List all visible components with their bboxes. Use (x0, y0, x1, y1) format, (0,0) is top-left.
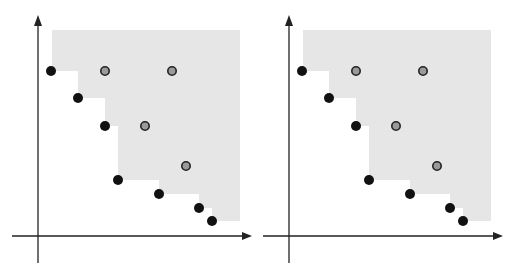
y-axis-arrow-icon (34, 15, 42, 26)
left-panel (12, 15, 252, 263)
dominated-point (168, 67, 176, 75)
pareto-point (194, 203, 204, 213)
dominated-point (392, 122, 400, 130)
dominated-point (433, 162, 441, 170)
pareto-point (364, 175, 374, 185)
x-axis-arrow-icon (242, 232, 252, 240)
dominated-point (101, 67, 109, 75)
right-panel (263, 15, 503, 263)
pareto-point (154, 189, 164, 199)
dominated-point (141, 122, 149, 130)
pareto-point (113, 175, 123, 185)
pareto-point (324, 93, 334, 103)
pareto-point (46, 66, 56, 76)
dominated-point (419, 67, 427, 75)
dominated-point (352, 67, 360, 75)
pareto-point (207, 216, 217, 226)
pareto-point (445, 203, 455, 213)
dominated-point (182, 162, 190, 170)
x-axis-arrow-icon (493, 232, 503, 240)
pareto-diagram (0, 0, 511, 275)
pareto-point (458, 216, 468, 226)
pareto-point (297, 66, 307, 76)
pareto-point (73, 93, 83, 103)
pareto-point (405, 189, 415, 199)
pareto-point (351, 121, 361, 131)
pareto-point (100, 121, 110, 131)
y-axis-arrow-icon (285, 15, 293, 26)
